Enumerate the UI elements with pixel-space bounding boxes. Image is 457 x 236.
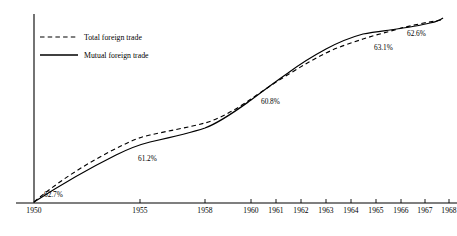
chart-container: Total foreign trade Mutual foreign trade… (0, 0, 457, 236)
x-tick-label-1965: 1965 (368, 206, 383, 215)
chart-plot-area (0, 0, 457, 236)
data-label-60-8: 60.8% (261, 97, 280, 106)
x-tick-label-1958: 1958 (197, 206, 212, 215)
x-tick-label-1960: 1960 (243, 206, 258, 215)
legend-label-total-foreign-trade: Total foreign trade (84, 33, 142, 42)
x-tick-label-1955: 1955 (132, 206, 147, 215)
x-tick-label-1961: 1961 (268, 206, 283, 215)
legend-label-mutual-foreign-trade: Mutual foreign trade (84, 51, 149, 60)
data-label-63-1: 63.1% (374, 43, 393, 52)
x-tick-label-1967: 1967 (417, 206, 432, 215)
data-label-62-6: 62.6% (407, 29, 426, 38)
x-tick-label-1963: 1963 (318, 206, 333, 215)
x-tick-label-1968: 1968 (441, 206, 456, 215)
data-label-62-7: 62.7% (44, 190, 63, 199)
data-label-61-2: 61.2% (138, 154, 157, 163)
x-tick-label-1962: 1962 (293, 206, 308, 215)
x-tick-label-1964: 1964 (343, 206, 358, 215)
x-axis-ticks (140, 199, 449, 203)
x-tick-label-1966: 1966 (393, 206, 408, 215)
x-tick-label-1950: 1950 (26, 206, 41, 215)
